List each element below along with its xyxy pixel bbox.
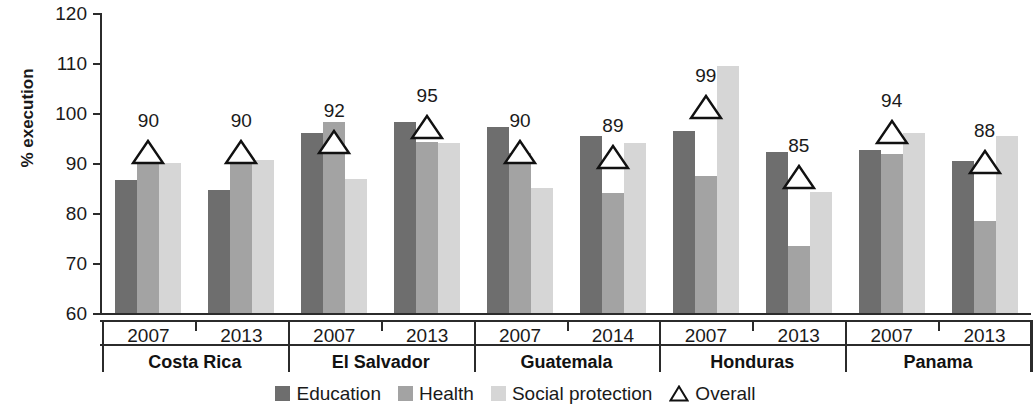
chart-legend: EducationHealthSocial protectionOverall: [0, 384, 1031, 403]
bar-social-protection: [903, 133, 925, 313]
legend-label: Health: [419, 384, 474, 403]
overall-value-label: 95: [387, 86, 467, 105]
overall-value-label: 89: [573, 116, 653, 135]
x-axis-year-label: 2013: [382, 326, 472, 345]
x-axis-year-label: 2013: [754, 326, 844, 345]
overall-value-label: 99: [666, 66, 746, 85]
overall-value-label: 88: [945, 121, 1025, 140]
bar-education: [673, 131, 695, 314]
bar-health: [137, 162, 159, 313]
bar-social-protection: [159, 163, 181, 313]
x-axis-country-label: Honduras: [659, 353, 845, 371]
bar-social-protection: [810, 192, 832, 314]
x-axis-year-label: 2007: [661, 326, 751, 345]
legend-item: Social protection: [491, 384, 652, 403]
overall-value-label: 92: [294, 101, 374, 120]
x-axis-year-label: 2013: [196, 326, 286, 345]
bar-health: [602, 193, 624, 313]
x-axis-band-top: [100, 320, 1031, 322]
bar-social-protection: [438, 143, 460, 314]
y-axis-tick: [93, 313, 100, 315]
x-axis-year-label: 2013: [940, 326, 1030, 345]
bar-health: [974, 221, 996, 314]
x-axis-country-label: Guatemala: [474, 353, 660, 371]
legend-label: Overall: [695, 384, 755, 403]
legend-swatch: [275, 386, 290, 401]
x-axis-year-label: 2007: [475, 326, 565, 345]
x-axis-country-label: Costa Rica: [102, 353, 288, 371]
legend-swatch: [491, 386, 506, 401]
x-axis-line: [100, 313, 1031, 315]
overall-value-label: 94: [852, 91, 932, 110]
overall-value-label: 90: [201, 111, 281, 130]
bar-health: [509, 153, 531, 314]
bar-education: [208, 190, 230, 313]
x-axis-country-label: Panama: [845, 353, 1031, 371]
overall-value-label: 85: [759, 136, 839, 155]
legend-item: Health: [398, 384, 474, 403]
bar-social-protection: [531, 188, 553, 314]
overall-value-label: 90: [480, 111, 560, 130]
x-axis-year-label: 2007: [289, 326, 379, 345]
legend-item: Overall: [669, 384, 755, 403]
legend-label: Social protection: [512, 384, 652, 403]
legend-label: Education: [296, 384, 381, 403]
x-axis-year-label: 2014: [568, 326, 658, 345]
x-axis-country-label: El Salvador: [288, 353, 474, 371]
bar-health: [881, 154, 903, 314]
plot-area: 90909295908999859488: [0, 0, 1031, 313]
bar-health: [230, 159, 252, 313]
bar-education: [115, 180, 137, 314]
bar-education: [394, 122, 416, 314]
bar-health: [788, 246, 810, 313]
bar-health: [416, 142, 438, 314]
bar-education: [859, 150, 881, 313]
bar-social-protection: [252, 160, 274, 314]
x-axis-year-label: 2007: [847, 326, 937, 345]
legend-swatch: [398, 386, 413, 401]
bar-education: [301, 133, 323, 313]
x-axis-year-label: 2007: [103, 326, 193, 345]
bar-education: [952, 161, 974, 313]
overall-value-label: 90: [108, 111, 188, 130]
bar-health: [695, 176, 717, 313]
legend-item: Education: [275, 384, 381, 403]
triangle-icon: [669, 385, 689, 402]
bar-social-protection: [345, 179, 367, 313]
